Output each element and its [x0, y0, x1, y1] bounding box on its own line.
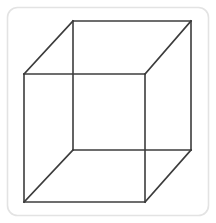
figure-background	[0, 0, 216, 223]
figure-container: Necker cube	[0, 0, 216, 223]
necker-cube-drawing	[0, 0, 216, 223]
